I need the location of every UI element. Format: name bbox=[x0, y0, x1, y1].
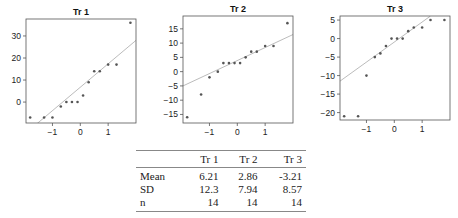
x-tick-label: 1 bbox=[263, 127, 268, 137]
data-point bbox=[228, 62, 231, 65]
data-point bbox=[98, 70, 101, 73]
x-tick-label: 0 bbox=[392, 124, 397, 134]
row-label: n bbox=[136, 196, 183, 212]
x-tick-label: 1 bbox=[106, 127, 111, 137]
plot-title: Tr 2 bbox=[230, 4, 246, 14]
data-point bbox=[217, 70, 220, 73]
x-tick-label: −1 bbox=[205, 127, 215, 137]
data-point bbox=[390, 37, 393, 40]
cell-value: 14 bbox=[262, 196, 306, 212]
data-point bbox=[421, 26, 424, 29]
cell-value: -3.21 bbox=[262, 168, 306, 184]
x-tick-label: 0 bbox=[235, 127, 240, 137]
data-point bbox=[65, 101, 68, 104]
data-point bbox=[412, 26, 415, 29]
data-point bbox=[407, 30, 410, 33]
reference-line bbox=[183, 35, 293, 86]
data-point bbox=[51, 116, 54, 119]
qq-plot-tr3: Tr 3−20−15−10−505−101 bbox=[314, 0, 454, 138]
y-tick-label: 30 bbox=[12, 31, 22, 41]
table-header-row: Tr 1 Tr 2 Tr 3 bbox=[136, 151, 306, 168]
data-point bbox=[60, 105, 63, 108]
qq-plot-tr1: Tr 10102030−101 bbox=[0, 3, 140, 141]
plot-title: Tr 3 bbox=[387, 4, 403, 14]
y-tick-label: −5 bbox=[325, 52, 335, 62]
data-point bbox=[443, 19, 446, 22]
table-header-tr3: Tr 3 bbox=[262, 151, 306, 168]
y-tick-label: −15 bbox=[164, 109, 179, 119]
data-point bbox=[357, 115, 360, 118]
y-tick-label: 10 bbox=[169, 38, 179, 48]
cell-value: 8.57 bbox=[262, 183, 306, 196]
qq-plot-tr2: Tr 2−15−10−5051015−101 bbox=[157, 0, 297, 141]
data-point bbox=[87, 81, 90, 84]
x-tick-label: 0 bbox=[78, 127, 83, 137]
cell-value: 14 bbox=[223, 196, 262, 212]
data-point bbox=[396, 37, 399, 40]
y-tick-label: 0 bbox=[16, 97, 21, 107]
data-point bbox=[82, 94, 85, 97]
data-point bbox=[93, 70, 96, 73]
cell-value: 14 bbox=[183, 196, 222, 212]
data-point bbox=[233, 62, 236, 65]
cell-value: 12.3 bbox=[183, 183, 222, 196]
row-label: Mean bbox=[136, 168, 183, 184]
data-point bbox=[186, 116, 189, 119]
data-point bbox=[107, 63, 110, 66]
data-point bbox=[429, 19, 432, 22]
y-tick-label: 10 bbox=[12, 75, 22, 85]
plot-frame bbox=[183, 16, 293, 123]
cell-value: 6.21 bbox=[183, 168, 222, 184]
y-tick-label: −10 bbox=[164, 95, 179, 105]
table-header-tr2: Tr 2 bbox=[223, 151, 262, 168]
y-tick-label: −20 bbox=[321, 108, 336, 118]
cell-value: 2.86 bbox=[223, 168, 262, 184]
x-tick-label: −1 bbox=[362, 124, 372, 134]
data-point bbox=[222, 62, 225, 65]
data-point bbox=[244, 56, 247, 59]
reference-line bbox=[340, 16, 431, 81]
data-point bbox=[200, 93, 203, 96]
data-point bbox=[379, 52, 382, 55]
y-tick-label: −10 bbox=[321, 71, 336, 81]
plot-title: Tr 1 bbox=[73, 7, 89, 17]
data-point bbox=[43, 116, 46, 119]
data-point bbox=[286, 22, 289, 25]
data-point bbox=[401, 37, 404, 40]
table-row-n: n 14 14 14 bbox=[136, 196, 306, 212]
data-point bbox=[385, 45, 388, 48]
data-point bbox=[374, 56, 377, 59]
data-point bbox=[272, 45, 275, 48]
row-label: SD bbox=[136, 183, 183, 196]
y-tick-label: −5 bbox=[168, 81, 178, 91]
data-point bbox=[343, 115, 346, 118]
data-point bbox=[129, 21, 132, 24]
y-tick-label: 5 bbox=[330, 15, 335, 25]
data-point bbox=[365, 74, 368, 77]
data-point bbox=[71, 101, 74, 104]
x-tick-label: 1 bbox=[420, 124, 425, 134]
plot-frame bbox=[340, 16, 450, 120]
table-row-sd: SD 12.3 7.94 8.57 bbox=[136, 183, 306, 196]
table-header-tr1: Tr 1 bbox=[183, 151, 222, 168]
y-tick-label: 20 bbox=[12, 53, 22, 63]
data-point bbox=[208, 76, 211, 79]
reference-line bbox=[26, 40, 136, 133]
data-point bbox=[264, 45, 267, 48]
data-point bbox=[76, 101, 79, 104]
summary-stats-table: Tr 1 Tr 2 Tr 3 Mean 6.21 2.86 -3.21 SD 1… bbox=[136, 150, 306, 212]
y-tick-label: 15 bbox=[169, 24, 179, 34]
table-header-corner bbox=[136, 151, 183, 168]
data-point bbox=[115, 63, 118, 66]
data-point bbox=[29, 116, 32, 119]
y-tick-label: 5 bbox=[173, 52, 178, 62]
data-point bbox=[255, 50, 258, 53]
data-point bbox=[239, 62, 242, 65]
y-tick-label: −15 bbox=[321, 89, 336, 99]
table-row-mean: Mean 6.21 2.86 -3.21 bbox=[136, 168, 306, 184]
cell-value: 7.94 bbox=[223, 183, 262, 196]
y-tick-label: 0 bbox=[173, 67, 178, 77]
x-tick-label: −1 bbox=[48, 127, 58, 137]
plot-frame bbox=[26, 19, 136, 123]
data-point bbox=[250, 50, 253, 53]
